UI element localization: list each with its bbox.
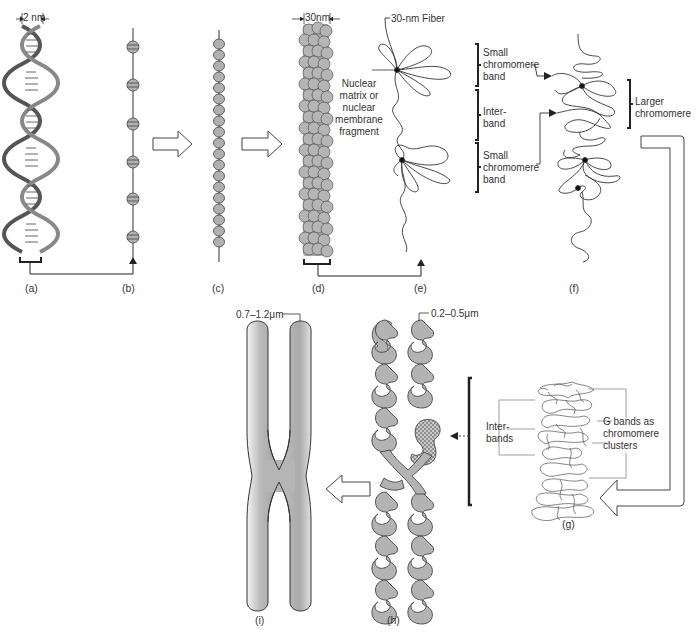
thirty-nm-fiber-solenoid: [292, 13, 425, 276]
chromatid-width-label: 0.2–0.5μm: [431, 308, 478, 320]
process-arrow-h-to-i: [326, 475, 370, 503]
dna-width-label: 2 nm: [23, 12, 45, 24]
panel-label-g: (g): [562, 518, 575, 530]
small-chromomere-band-label-1: Small chromomere band: [483, 47, 539, 83]
fiber-label: 30-nm Fiber: [391, 13, 445, 25]
panel-label-i: (i): [255, 614, 264, 626]
panel-label-c: (c): [212, 282, 224, 294]
fiber-width-label: 30nm: [305, 12, 330, 24]
g-bands-label: G bands as chromomere clusters: [603, 416, 659, 452]
process-arrow-1: [153, 131, 192, 157]
nucleosome-string: [127, 28, 139, 258]
interbands-label: Inter- bands: [486, 421, 513, 445]
interband-label: Inter- band: [483, 106, 506, 130]
larger-chromomere-label: Larger chromomere: [635, 96, 691, 120]
panel-label-d: (d): [312, 282, 325, 294]
dna-double-helix: [4, 13, 137, 274]
chromosome-packing-diagram: 2 nm 30nm 30-nm Fiber Nuclear matrix or …: [0, 0, 697, 636]
process-arrow-f-to-g: [600, 136, 684, 516]
panel-label-a: (a): [25, 282, 38, 294]
panel-label-h: (h): [387, 614, 400, 626]
condensed-nucleosomes: [214, 30, 225, 262]
process-arrow-2: [242, 131, 282, 157]
larger-chromomere: [552, 34, 620, 262]
panel-label-e: (e): [414, 282, 427, 294]
small-chromomere-band-label-2: Small chromomere band: [483, 150, 539, 186]
coiled-chromatids: [372, 320, 440, 624]
g-band-chromatin: [532, 382, 594, 521]
chromosome-width-label: 0.7–1.2μm: [236, 309, 283, 321]
nuclear-matrix-label: Nuclear matrix or nuclear membrane fragm…: [330, 78, 388, 138]
metaphase-chromosome: [247, 321, 311, 611]
panel-label-f: (f): [569, 282, 579, 294]
band-brackets: [475, 44, 481, 192]
panel-label-b: (b): [122, 282, 135, 294]
